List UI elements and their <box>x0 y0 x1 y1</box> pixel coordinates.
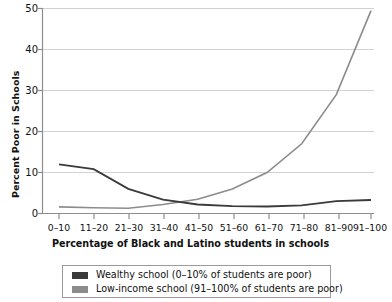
legend-swatch-wealthy <box>72 272 88 279</box>
series-line-wealthy <box>59 164 371 206</box>
series-line-low-income <box>59 11 371 209</box>
x-tick-label-9: 91–100 <box>347 222 392 233</box>
legend-item-wealthy: Wealthy school (0–10% of students are po… <box>72 269 312 281</box>
x-tick-label-7: 71–80 <box>284 222 324 233</box>
x-axis-title: Percentage of Black and Latino students … <box>0 238 381 249</box>
x-tick-label-2: 21–30 <box>109 222 149 233</box>
x-tick-label-6: 61–70 <box>249 222 289 233</box>
x-tick-label-3: 31–40 <box>144 222 184 233</box>
chart-legend: Wealthy school (0–10% of students are po… <box>62 265 331 298</box>
x-axis-ticks <box>59 214 371 220</box>
x-tick-label-0: 0–10 <box>39 222 79 233</box>
gridlines <box>42 9 374 173</box>
legend-label-wealthy: Wealthy school (0–10% of students are po… <box>96 269 312 281</box>
y-axis-ticks <box>37 9 43 214</box>
x-tick-label-4: 41–50 <box>179 222 219 233</box>
x-tick-label-1: 11–20 <box>74 222 114 233</box>
legend-swatch-low-income <box>72 286 88 293</box>
x-tick-label-5: 51–60 <box>214 222 254 233</box>
legend-label-low-income: Low-income school (91–100% of students a… <box>96 283 343 295</box>
legend-item-low-income: Low-income school (91–100% of students a… <box>72 283 343 295</box>
